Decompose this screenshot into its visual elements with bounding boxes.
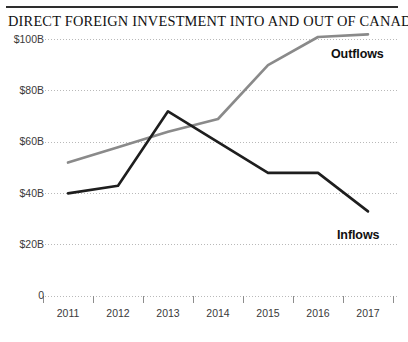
y-tick-label-40b: $40B xyxy=(0,187,44,199)
series-line-inflows xyxy=(68,111,368,211)
y-tick-label-20b: $20B xyxy=(0,238,44,250)
gridlines xyxy=(45,40,398,297)
x-tick-label-2016: 2016 xyxy=(293,307,343,319)
y-tick-label-60b: $60B xyxy=(0,135,44,147)
x-tick-label-2013: 2013 xyxy=(143,307,193,319)
x-tick-label-2014: 2014 xyxy=(193,307,243,319)
x-tick-label-2011: 2011 xyxy=(43,307,93,319)
x-tick-label-2015: 2015 xyxy=(243,307,293,319)
x-axis-ticks xyxy=(44,296,394,303)
y-tick-label-100b: $100B xyxy=(0,33,44,45)
x-tick-label-2017: 2017 xyxy=(343,307,393,319)
series-label-outflows: Outflows xyxy=(331,47,384,61)
y-tick-label-80b: $80B xyxy=(0,84,44,96)
y-tick-label-0: 0 xyxy=(0,289,44,301)
x-tick-label-2012: 2012 xyxy=(93,307,143,319)
series-label-inflows: Inflows xyxy=(337,228,379,242)
chart-figure: DIRECT FOREIGN INVESTMENT INTO AND OUT O… xyxy=(0,0,408,342)
